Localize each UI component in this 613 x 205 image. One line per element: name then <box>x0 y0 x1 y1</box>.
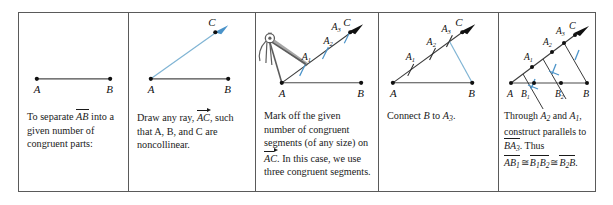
panel-4-caption: Connect B to A3. <box>379 109 498 125</box>
point-c-dot <box>348 30 352 34</box>
point-b-dot <box>470 81 474 85</box>
segment-notation-ba3: BA3 <box>504 138 520 155</box>
segment-notation-b2b: B2B <box>559 155 575 172</box>
caption-mid: to <box>432 110 440 121</box>
label-a3: A3 <box>440 23 450 35</box>
point-b2-dot <box>559 81 563 85</box>
caption-lead: Draw any ray, <box>137 112 194 123</box>
caption-lead: Connect <box>387 110 421 121</box>
panel-2-diagram: A B C <box>129 13 255 109</box>
panel-4-svg: A B C A1 A2 A3 <box>379 13 498 109</box>
segment-ab1-sub: 1 <box>516 161 520 170</box>
point-b-dot <box>226 77 230 81</box>
panel-3-diagram: A B C A1 A2 A3 <box>256 13 378 109</box>
panel-1-svg: A B <box>19 13 128 109</box>
point-a-dot <box>509 81 513 85</box>
segment-ab1-text: AB <box>504 157 516 168</box>
ray-notation-ac: AC <box>197 109 210 125</box>
point-c-dot <box>573 33 577 37</box>
label-b: B <box>583 88 589 99</box>
label-a2: A2 <box>426 36 437 48</box>
congruent-symbol-1: ≅ <box>520 157 530 168</box>
label-a: A <box>506 88 514 99</box>
caption-line-3: BA3. Thus <box>504 138 591 155</box>
point-a-dot <box>35 77 39 81</box>
panel-1-caption: To separate AB into a given number of co… <box>19 109 128 151</box>
point-b1-dot <box>532 81 536 85</box>
label-b: B <box>468 87 475 99</box>
label-a: A <box>33 83 41 95</box>
tick-a2 <box>430 48 436 60</box>
point-a3-dot <box>562 41 566 45</box>
segment-b1b2-sub2: 2 <box>546 161 550 170</box>
construction-figure: A B To separate AB into a given number o… <box>18 12 596 192</box>
label-b: B <box>106 83 113 95</box>
segment-b-to-a3 <box>449 41 472 83</box>
panel-2-svg: A B C <box>129 13 255 109</box>
caption-l1e: , <box>579 110 581 121</box>
label-b: B <box>224 83 231 95</box>
label-c: C <box>343 16 351 28</box>
panel-2-caption: Draw any ray, AC, such that A, B, and C … <box>129 109 255 152</box>
caption-thus: . Thus <box>520 140 545 151</box>
segment-notation-ab: AB <box>76 109 88 124</box>
point-a-dot <box>391 81 395 85</box>
caption-rest: . In this case, we use three congruent s… <box>264 153 371 178</box>
point-a-dot <box>149 77 153 81</box>
caption-lead: To separate <box>27 111 74 122</box>
point-a-dot <box>280 81 284 85</box>
panel-step-3: A B C A1 A2 A3 Mark off the given number… <box>256 13 379 191</box>
label-a2: A2 <box>542 37 552 48</box>
label-a2: A2 <box>322 35 333 47</box>
label-c: C <box>455 16 463 28</box>
panel-4-diagram: A B C A1 A2 A3 <box>379 13 498 109</box>
tick-a1 <box>408 64 414 76</box>
label-c: C <box>569 20 576 31</box>
caption-period: . <box>575 157 577 168</box>
congruent-symbol-2: ≅ <box>549 157 559 168</box>
point-a2-dot <box>550 50 554 54</box>
panel-3-svg: A B C A1 A2 A3 <box>256 13 378 109</box>
panel-3-caption: Mark off the given number of congruent s… <box>256 109 378 179</box>
caption-congruence-statement: AB1≅B1B2≅B2B. <box>504 155 591 172</box>
segment-notation-ab1: AB1 <box>504 155 520 172</box>
point-c-dot <box>213 30 217 34</box>
segment-b2b-text2: B <box>569 157 575 168</box>
label-b1: B1 <box>521 89 530 100</box>
segment-notation-b1b2: B1B2 <box>530 155 550 172</box>
point-c-dot <box>460 30 464 34</box>
ray-ac <box>151 32 216 79</box>
panel-1-diagram: A B <box>19 13 128 109</box>
panel-5-caption: Through A2 and A1, construct parallels t… <box>499 109 595 172</box>
label-a: A <box>278 87 286 99</box>
label-a: A <box>147 83 155 95</box>
label-a2-inline-sub: 2 <box>547 114 551 123</box>
point-b-dot <box>585 81 589 85</box>
panel-step-5: A B C A1 A2 A3 B1 B2 Through A2 and A1, … <box>499 13 595 191</box>
caption-l1c: and <box>553 110 567 121</box>
point-a1-dot <box>530 65 534 69</box>
label-a3: A3 <box>555 26 565 37</box>
segment-ba3-text: BA <box>504 140 516 151</box>
point-b-dot <box>108 77 112 81</box>
label-a1: A1 <box>523 52 533 63</box>
label-a1: A1 <box>405 51 415 63</box>
panel-5-svg: A B C A1 A2 A3 B1 B2 <box>499 13 595 109</box>
label-b2: B2 <box>555 89 564 100</box>
panel-step-2: A B C Draw any ray, AC, such that A, B, … <box>129 13 256 191</box>
label-c: C <box>208 16 216 28</box>
segment-b-to-a3 <box>564 43 587 83</box>
caption-rest: . <box>453 110 456 121</box>
point-b-dot <box>359 81 363 85</box>
label-a3: A3 <box>330 21 340 33</box>
panel-step-4: A B C A1 A2 A3 Connect B to A3. <box>379 13 499 191</box>
caption-l1a: Through <box>504 110 538 121</box>
panel-step-1: A B To separate AB into a given number o… <box>19 13 129 191</box>
label-b: B <box>357 87 364 99</box>
segment-ba3-sub: 3 <box>516 144 520 153</box>
ray-ac <box>282 32 351 83</box>
label-b-inline: B <box>424 110 430 121</box>
tick-a1 <box>300 64 306 76</box>
tick-parallel-1 <box>575 50 579 60</box>
panel-5-diagram: A B C A1 A2 A3 B1 B2 <box>499 13 595 109</box>
